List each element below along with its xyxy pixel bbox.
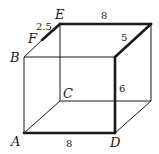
vertex-label-C: C (63, 86, 73, 101)
vertex-label-B: B (9, 50, 20, 65)
edge-C-A (24, 101, 60, 133)
edge-I-D (115, 101, 151, 133)
measure-bottom-edge: 8 (66, 138, 72, 149)
measure-EF: 2.5 (36, 21, 52, 32)
measure-vertical-right: 6 (119, 83, 125, 94)
measure-top-right-depth: 5 (121, 32, 127, 43)
vertex-label-A: A (10, 134, 20, 149)
vertex-label-E: E (54, 7, 65, 22)
vertex-label-D: D (109, 135, 121, 150)
vertex-label-F: F (27, 31, 38, 46)
measure-top-edge: 8 (101, 10, 107, 21)
prism-diagram: E F B C A D 2.5 8 5 6 8 (0, 0, 159, 154)
